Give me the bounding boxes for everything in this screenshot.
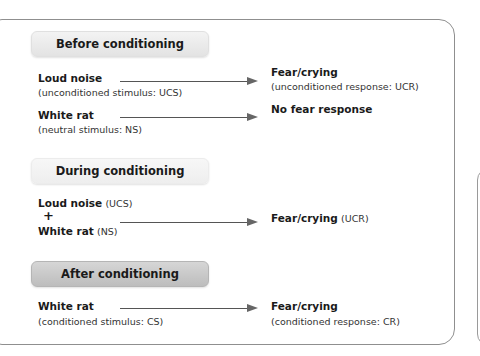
arrow-icon: [120, 77, 258, 85]
response-note-cr: (conditioned response: CR): [271, 316, 400, 327]
response-fear-crying: Fear/crying: [271, 212, 338, 224]
stage-label-before: Before conditioning: [31, 31, 209, 57]
response-fear-crying: Fear/crying: [271, 300, 338, 312]
stimulus-note-ucs: (unconditioned stimulus: UCS): [38, 87, 182, 98]
stimulus-pair-b: White rat (NS): [38, 225, 118, 237]
stimulus-abbr-ns: (NS): [97, 226, 118, 237]
plus-icon: +: [43, 211, 54, 221]
response-group: Fear/crying (UCR): [271, 212, 369, 224]
stimulus-abbr-ucs: (UCS): [105, 198, 132, 209]
response-fear-crying: Fear/crying: [271, 66, 338, 78]
response-abbr-ucr: (UCR): [341, 213, 369, 224]
stimulus-white-rat: White rat: [38, 109, 94, 121]
arrow-icon: [120, 113, 258, 121]
arrow-icon: [120, 218, 258, 226]
stimulus-white-rat: White rat: [38, 225, 94, 237]
arrow-icon: [120, 304, 258, 312]
stage-label-after: After conditioning: [31, 261, 209, 287]
stage-label-during: During conditioning: [31, 158, 209, 184]
stimulus-note-ns: (neutral stimulus: NS): [38, 124, 142, 135]
stimulus-note-cs: (conditioned stimulus: CS): [38, 316, 163, 327]
response-no-fear: No fear response: [271, 103, 372, 115]
response-note-ucr: (unconditioned response: UCR): [271, 81, 419, 92]
stimulus-loud-noise: Loud noise: [38, 72, 102, 84]
stimulus-white-rat: White rat: [38, 300, 94, 312]
